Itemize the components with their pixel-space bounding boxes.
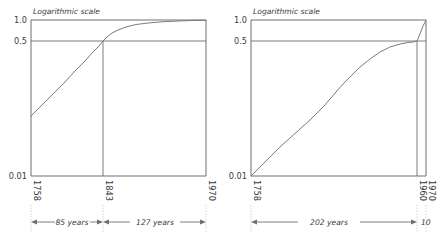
chart-title-right: Logarithmic scale [253,7,320,16]
chart-svg-right: Logarithmic scale 1.0 0.5 0.01 1758 1960… [220,0,440,239]
span-arrowhead-right-85 [97,220,103,225]
x-tick-label-1843-left: 1843 [104,180,114,201]
y-tick-label-1p0-left: 1.0 [14,15,27,25]
span-label-202-years: 202 years [310,218,348,227]
x-tick-label-1960-right: 1960 [418,180,428,201]
y-tick-label-0p5-right: 0.5 [234,36,247,46]
chart-panel-left: Logarithmic scale 1.0 0.5 0.01 1758 1843… [0,0,220,239]
span-label-127-years: 127 years [136,218,174,227]
span-arrowhead-left-202 [251,220,257,225]
y-tick-label-0p01-right: 0.01 [229,171,247,181]
x-tick-label-1970-left: 1970 [207,180,217,201]
y-tick-label-1p0-right: 1.0 [234,15,247,25]
x-tick-label-1758-left: 1758 [32,180,42,201]
span-label-85-years: 85 years [56,218,89,227]
span-label-10-years: 10 [421,218,431,227]
chart-svg-left: Logarithmic scale 1.0 0.5 0.01 1758 1843… [0,0,220,239]
chart-title-left: Logarithmic scale [33,7,100,16]
data-curve-left [31,20,206,116]
figure-root: Logarithmic scale 1.0 0.5 0.01 1758 1843… [0,0,440,239]
x-tick-label-1970-right: 1970 [427,180,437,201]
span-arrowhead-left-85 [31,220,37,225]
span-arrowhead-right-202 [411,220,417,225]
y-tick-label-0p01-left: 0.01 [9,171,27,181]
x-tick-label-1758-right: 1758 [252,180,262,201]
span-arrowhead-left-127 [103,220,109,225]
data-curve-right [251,20,426,176]
chart-panel-right: Logarithmic scale 1.0 0.5 0.01 1758 1960… [220,0,440,239]
y-tick-label-0p5-left: 0.5 [14,36,27,46]
span-arrowhead-right-127 [200,220,206,225]
